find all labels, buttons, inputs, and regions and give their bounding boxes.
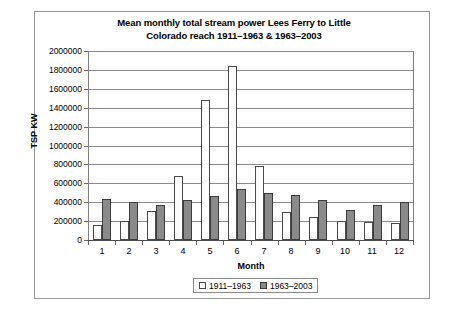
x-axis-tick-label: 9 (305, 246, 331, 256)
gridline (88, 164, 414, 165)
x-axis-tick-label: 10 (332, 246, 358, 256)
bar (309, 217, 318, 240)
plot-right-border (413, 51, 414, 241)
x-axis-tick-label: 5 (197, 246, 223, 256)
x-axis-tick-label: 2 (116, 246, 142, 256)
y-axis-line (88, 51, 89, 241)
bar (264, 193, 273, 240)
y-axis-tick-label: 800000 (22, 160, 82, 169)
bar (183, 200, 192, 240)
bar (102, 199, 111, 240)
x-axis-tick-mark (115, 241, 116, 245)
bar (147, 211, 156, 240)
bar (129, 202, 138, 240)
x-axis-tick-mark (196, 241, 197, 245)
y-axis-tick-labels: 2000000180000016000001400000120000010000… (18, 0, 82, 300)
legend-item: 1911–1963 (199, 281, 251, 291)
x-axis-tick-label: 6 (224, 246, 250, 256)
bar (201, 100, 210, 240)
x-axis-tick-mark (223, 241, 224, 245)
y-axis-tick-label: 1200000 (22, 123, 82, 132)
legend-label: 1911–1963 (209, 281, 251, 291)
bar (400, 202, 409, 240)
x-axis-tick-mark (278, 241, 279, 245)
y-axis-tick-label: 1600000 (22, 85, 82, 94)
bar (391, 223, 400, 240)
x-axis-tick-label: 8 (278, 246, 304, 256)
bar (291, 195, 300, 240)
bar (255, 166, 264, 240)
bar (174, 176, 183, 240)
y-axis-tick-label: 200000 (22, 217, 82, 226)
x-axis-tick-mark (142, 241, 143, 245)
x-axis-tick-mark (413, 241, 414, 245)
chart-title: Mean monthly total stream power Lees Fer… (54, 17, 414, 42)
gridline (88, 89, 414, 90)
x-axis-tick-label: 7 (251, 246, 277, 256)
legend-label: 1963–2003 (270, 281, 313, 291)
gridline (88, 108, 414, 109)
y-axis-tick-label: 1400000 (22, 104, 82, 113)
x-axis-tick-label: 12 (386, 246, 412, 256)
y-axis-tick-label: 1000000 (22, 142, 82, 151)
y-axis-tick-label: 2000000 (22, 47, 82, 56)
bar (318, 200, 327, 240)
x-axis-title: Month (88, 261, 414, 271)
bar (228, 66, 237, 240)
x-axis-tick-mark (305, 241, 306, 245)
x-axis-tick-label: 3 (143, 246, 169, 256)
x-axis-tick-mark (332, 241, 333, 245)
x-axis-tick-label: 11 (359, 246, 385, 256)
y-axis-tick-label: 600000 (22, 179, 82, 188)
bar (93, 225, 102, 240)
legend-swatch (199, 282, 206, 289)
chart-figure: Mean monthly total stream power Lees Fer… (0, 0, 460, 316)
chart-title-line-2: Colorado reach 1911–1963 & 1963–2003 (54, 30, 414, 43)
gridline (88, 70, 414, 71)
x-axis-tick-label: 1 (89, 246, 115, 256)
gridline (88, 51, 414, 52)
x-axis-tick-mark (386, 241, 387, 245)
gridline (88, 183, 414, 184)
chart-title-line-1: Mean monthly total stream power Lees Fer… (54, 17, 414, 30)
y-axis-tick-label: 400000 (22, 198, 82, 207)
legend-item: 1963–2003 (260, 281, 313, 291)
bar (337, 221, 346, 240)
y-axis-tick-label: 1800000 (22, 66, 82, 75)
y-axis-tick-label: 0 (22, 236, 82, 245)
chart-legend: 1911–19631963–2003 (193, 278, 318, 293)
bar (373, 205, 382, 240)
legend-swatch (260, 282, 267, 289)
bar (237, 189, 246, 240)
x-axis-tick-mark (251, 241, 252, 245)
bar (156, 205, 165, 240)
bar (282, 212, 291, 240)
bar (346, 210, 355, 240)
gridline (88, 146, 414, 147)
x-axis-tick-label: 4 (170, 246, 196, 256)
x-axis-tick-mark (88, 241, 89, 245)
gridline (88, 127, 414, 128)
bar (364, 222, 373, 240)
bar (120, 221, 129, 240)
x-axis-tick-mark (169, 241, 170, 245)
bar (210, 196, 219, 240)
x-axis-tick-mark (359, 241, 360, 245)
